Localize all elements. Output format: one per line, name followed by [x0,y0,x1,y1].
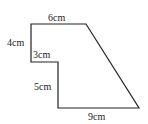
label-top: 6cm [48,12,65,23]
label-step: 3cm [33,49,50,60]
label-left-lower: 5cm [34,81,51,92]
label-left-upper: 4cm [7,37,24,48]
label-bottom: 9cm [88,111,105,122]
composite-shape-diagram: 6cm 4cm 3cm 5cm 9cm [0,0,148,124]
shape-outline [31,24,139,108]
